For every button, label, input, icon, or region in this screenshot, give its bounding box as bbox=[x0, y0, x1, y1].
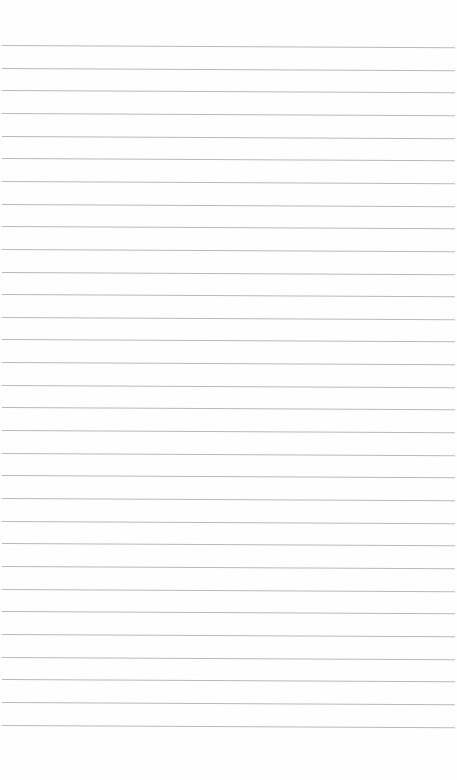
ruled-line bbox=[2, 634, 455, 637]
ruled-line bbox=[2, 702, 455, 705]
ruled-line bbox=[2, 498, 455, 501]
ruled-line bbox=[2, 657, 455, 660]
ruled-line bbox=[2, 45, 455, 48]
ruled-line bbox=[2, 430, 455, 433]
ruled-line bbox=[2, 566, 455, 569]
ruled-line bbox=[2, 181, 455, 184]
ruled-line bbox=[2, 226, 455, 229]
ruled-line bbox=[2, 589, 455, 592]
ruled-line bbox=[2, 136, 455, 139]
ruled-line bbox=[2, 453, 455, 456]
ruled-line bbox=[2, 611, 455, 614]
ruled-line bbox=[2, 158, 455, 161]
ruled-line bbox=[2, 272, 455, 275]
ruled-page bbox=[0, 0, 457, 780]
ruled-line bbox=[2, 385, 455, 388]
ruled-line bbox=[2, 113, 455, 116]
ruled-line bbox=[2, 68, 455, 71]
ruled-line bbox=[2, 679, 455, 682]
ruled-line bbox=[2, 339, 455, 342]
ruled-line bbox=[2, 294, 455, 297]
ruled-line bbox=[2, 249, 455, 252]
ruled-line bbox=[2, 407, 455, 410]
ruled-line bbox=[2, 475, 455, 478]
ruled-line bbox=[2, 317, 455, 320]
ruled-line bbox=[2, 362, 455, 365]
ruled-line bbox=[2, 521, 455, 524]
ruled-line bbox=[2, 543, 455, 546]
ruled-line bbox=[2, 204, 455, 207]
ruled-line bbox=[2, 90, 455, 93]
ruled-line bbox=[2, 725, 455, 728]
